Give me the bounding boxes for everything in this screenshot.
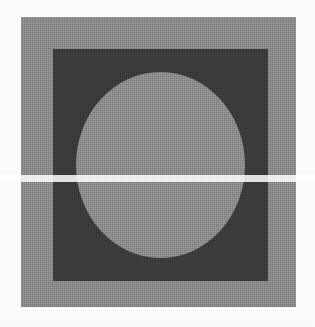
inner-square-shape xyxy=(53,49,268,281)
figure-canvas xyxy=(0,0,315,327)
circle-shape xyxy=(76,72,245,258)
